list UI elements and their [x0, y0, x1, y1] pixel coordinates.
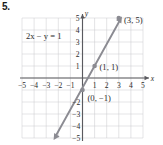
- x-tick--2: −2: [54, 81, 62, 90]
- x-tick-2: 2: [105, 81, 109, 90]
- y-tick-4: 4: [76, 26, 80, 35]
- point-3-5: [117, 16, 122, 21]
- y-tick-2: 2: [76, 50, 80, 59]
- y-tick--3: −3: [72, 110, 80, 119]
- coordinate-plane-svg: −5 −4 −3 −2 −1 1 2 3 4 5 5 4 3 2 1 −2 −3…: [0, 0, 163, 145]
- y-tick-5: 5: [76, 14, 80, 23]
- y-tick--2: −2: [72, 98, 80, 107]
- x-tick-4: 4: [129, 81, 133, 90]
- equation-label: 2x − y = 1: [26, 31, 61, 41]
- point-1-1: [92, 64, 97, 69]
- y-tick-1: 1: [76, 62, 80, 71]
- point-label-1-1: (1, 1): [100, 62, 119, 72]
- x-tick--5: −5: [18, 81, 26, 90]
- x-tick--4: −4: [30, 81, 38, 90]
- x-axis: [20, 76, 149, 80]
- graph-figure: 5.: [0, 0, 163, 145]
- y-tick-3: 3: [76, 38, 80, 47]
- x-tick-1: 1: [93, 81, 97, 90]
- x-tick--3: −3: [42, 81, 50, 90]
- x-axis-label: x: [150, 74, 155, 83]
- y-axis-label: y: [84, 9, 89, 18]
- point-label-0-neg1: (0, −1): [88, 93, 112, 103]
- x-tick-3: 3: [117, 81, 121, 90]
- y-tick--4: −4: [72, 122, 80, 131]
- point-0-neg1: [80, 88, 85, 93]
- x-tick-5: 5: [141, 81, 145, 90]
- x-tick--1: −1: [66, 81, 74, 90]
- point-label-3-5: (3, 5): [124, 15, 143, 25]
- y-tick--5: −5: [72, 134, 80, 143]
